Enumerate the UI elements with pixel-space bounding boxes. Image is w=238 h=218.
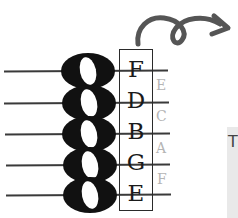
space-label-e: E <box>156 78 166 92</box>
curly-arrow-icon <box>130 8 238 48</box>
space-label-f: F <box>157 172 167 186</box>
line-label-g: G <box>118 151 154 174</box>
line-label-e: E <box>118 182 154 205</box>
side-panel-text: T <box>228 132 238 151</box>
line-label-b: B <box>118 120 154 143</box>
space-label-a: A <box>156 141 166 155</box>
whole-note-icon <box>62 176 118 214</box>
line-label-d: D <box>118 89 154 112</box>
line-label-f: F <box>118 58 154 81</box>
music-notation-figure: F D B G E E C A F T <box>0 0 238 218</box>
space-label-c: C <box>156 109 167 123</box>
